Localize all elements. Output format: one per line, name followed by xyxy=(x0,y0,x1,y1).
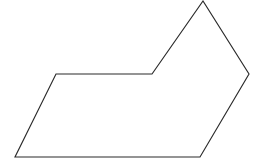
drawing-canvas xyxy=(0,0,261,163)
polygon-canvas-svg xyxy=(0,0,261,163)
concave-hexagon-outline xyxy=(15,1,249,157)
